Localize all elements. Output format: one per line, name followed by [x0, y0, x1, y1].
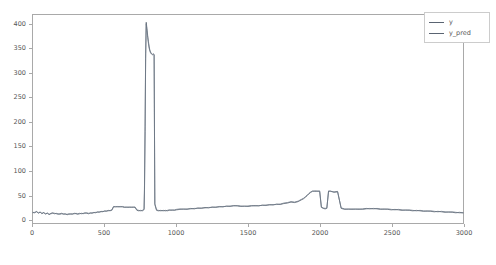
legend-label-y: y [449, 19, 453, 26]
legend-item-y-pred: y_pred [429, 28, 485, 39]
chart-legend: y y_pred [424, 12, 490, 43]
x-tick-label: 2500 [384, 229, 401, 237]
plot-area [32, 14, 464, 224]
legend-swatch-y-pred [429, 33, 444, 34]
x-tick-mark [176, 224, 177, 227]
x-tick-mark [104, 224, 105, 227]
x-tick-label: 0 [30, 229, 34, 237]
x-tick-label: 2000 [312, 229, 329, 237]
series-line-y-pred [33, 24, 463, 215]
series-line-y [33, 22, 463, 214]
x-tick-label: 1000 [168, 229, 185, 237]
legend-item-y: y [429, 17, 485, 28]
series-lines [33, 15, 463, 223]
x-tick-label: 1500 [240, 229, 257, 237]
chart-figure: 050100150200250300350400 050010001500200… [0, 0, 496, 265]
x-tick-mark [320, 224, 321, 227]
x-tick-mark [464, 224, 465, 227]
x-tick-mark [248, 224, 249, 227]
x-tick-mark [392, 224, 393, 227]
x-tick-label: 3000 [456, 229, 473, 237]
x-tick-label: 500 [98, 229, 110, 237]
legend-label-y-pred: y_pred [449, 30, 471, 37]
legend-swatch-y [429, 22, 444, 23]
x-tick-mark [32, 224, 33, 227]
